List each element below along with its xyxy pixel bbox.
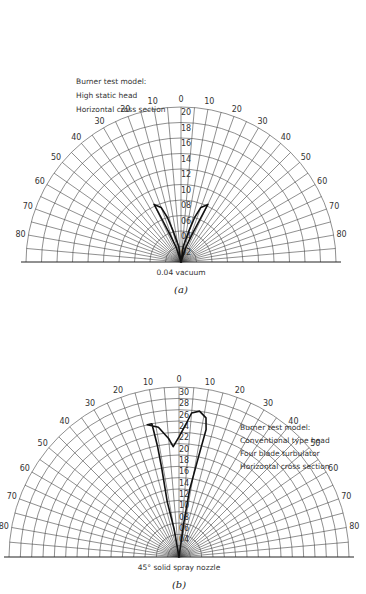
angle-tick-label: 10 <box>204 97 214 106</box>
polar-chart-a: 0101020203030404050506060707080800204060… <box>15 77 346 295</box>
angle-tick-label: 60 <box>35 177 45 186</box>
angle-tick-label: 50 <box>38 439 48 448</box>
angle-tick-label: 0 <box>178 95 183 104</box>
polar-chart-b: 0101020203030404050506060707080800406081… <box>0 375 359 590</box>
panel-caption: (b) <box>172 579 186 590</box>
radial-tick-label: 16 <box>179 467 189 476</box>
bottom-label: 0.04 vacuum <box>156 268 205 277</box>
svg-text:Burner test model:: Burner test model: <box>240 423 310 432</box>
radial-tick-label: 12 <box>181 170 191 179</box>
angle-tick-label: 30 <box>263 399 273 408</box>
radial-tick-label: 14 <box>179 479 189 488</box>
angle-tick-label: 80 <box>349 522 359 531</box>
radial-tick-label: 14 <box>181 155 191 164</box>
radial-tick-label: 26 <box>179 411 189 420</box>
radial-tick-label: 30 <box>179 388 189 397</box>
angle-tick-label: 30 <box>257 117 267 126</box>
radial-tick-label: 16 <box>181 139 191 148</box>
angle-tick-label: 60 <box>20 464 30 473</box>
angle-tick-label: 10 <box>205 378 215 387</box>
svg-text:Burner test model:: Burner test model: <box>76 77 146 86</box>
angle-tick-label: 70 <box>7 492 17 501</box>
svg-text:Horizontal cross section: Horizontal cross section <box>240 462 330 471</box>
angle-tick-label: 10 <box>143 378 153 387</box>
angle-tick-label: 50 <box>51 153 61 162</box>
angle-tick-label: 30 <box>94 117 104 126</box>
svg-text:Four blade turbulator: Four blade turbulator <box>240 449 321 458</box>
angle-tick-label: 0 <box>176 375 181 384</box>
angle-tick-label: 70 <box>23 202 33 211</box>
angle-tick-label: 20 <box>232 105 242 114</box>
svg-text:Conventional type head: Conventional type head <box>240 436 330 445</box>
angle-tick-label: 40 <box>71 133 81 142</box>
radial-tick-label: 06 <box>181 217 191 226</box>
angle-tick-label: 70 <box>341 492 351 501</box>
angle-tick-label: 50 <box>301 153 311 162</box>
radial-tick-label: 10 <box>181 186 191 195</box>
radial-tick-label: 08 <box>181 201 191 210</box>
angle-tick-label: 80 <box>336 230 346 239</box>
radial-labels: 02040608101214161820 <box>181 108 191 257</box>
radial-tick-label: 18 <box>179 456 189 465</box>
radial-tick-label: 28 <box>179 399 189 408</box>
angle-tick-label: 20 <box>235 386 245 395</box>
angle-tick-label: 60 <box>328 464 338 473</box>
polar-charts-figure: 0101020203030404050506060707080800204060… <box>0 0 366 594</box>
angle-tick-label: 20 <box>113 386 123 395</box>
radial-tick-label: 20 <box>179 445 189 454</box>
angle-tick-label: 60 <box>317 177 327 186</box>
radial-tick-label: 18 <box>181 124 191 133</box>
panel-caption: (a) <box>174 284 188 295</box>
annotation: Burner test model:High static headHorizo… <box>76 77 166 114</box>
angle-tick-label: 80 <box>15 230 25 239</box>
svg-text:High static head: High static head <box>76 91 138 100</box>
angle-tick-label: 40 <box>59 417 69 426</box>
angle-tick-label: 70 <box>329 202 339 211</box>
angle-tick-label: 30 <box>85 399 95 408</box>
angle-tick-label: 40 <box>281 133 291 142</box>
bottom-label: 45° solid spray nozzle <box>138 563 221 572</box>
angle-tick-label: 80 <box>0 522 9 531</box>
svg-text:Horizontal cross section: Horizontal cross section <box>76 105 166 114</box>
radial-tick-label: 20 <box>181 108 191 117</box>
